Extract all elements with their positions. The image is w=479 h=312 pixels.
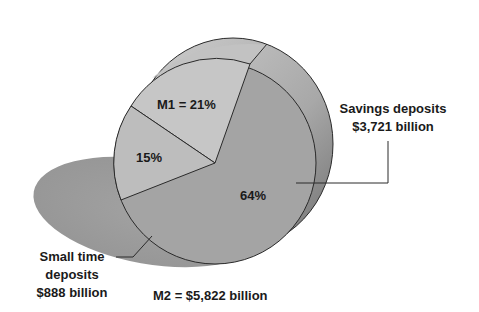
savings-value: $3,721 billion: [333, 118, 453, 136]
label-small-time-percent: 15%: [136, 149, 162, 167]
callout-small-time: Small time deposits $888 billion: [22, 248, 122, 302]
small-time-name-1: Small time: [22, 248, 122, 266]
total-label: M2 = $5,822 billion: [153, 287, 268, 305]
callout-savings: Savings deposits $3,721 billion: [333, 100, 453, 136]
small-time-value: $888 billion: [22, 284, 122, 302]
label-m1: M1 = 21%: [157, 96, 216, 114]
label-savings-percent: 64%: [240, 187, 266, 205]
small-time-name-2: deposits: [22, 266, 122, 284]
savings-name: Savings deposits: [333, 100, 453, 118]
